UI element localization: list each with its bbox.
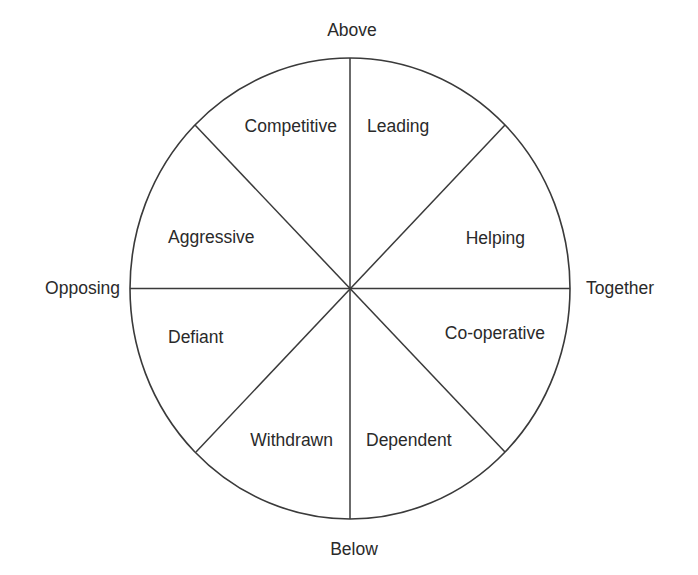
segment-label-withdrawn: Withdrawn [250,430,333,450]
axis-label-top: Above [327,20,377,40]
segment-label-defiant: Defiant [168,327,224,347]
axis-label-bottom: Below [330,539,378,559]
segment-label-competitive: Competitive [245,116,337,136]
axis-label-right: Together [586,278,654,298]
axis-label-left: Opposing [45,278,120,298]
segment-label-aggressive: Aggressive [168,227,255,247]
segment-label-helping: Helping [466,228,525,248]
segment-label-dependent: Dependent [366,430,452,450]
segment-label-leading: Leading [367,116,429,136]
segment-label-co-operative: Co-operative [445,323,545,343]
interpersonal-wheel-diagram: Above Below Opposing Together Competitiv… [0,0,698,575]
wheel-canvas: Above Below Opposing Together Competitiv… [0,0,698,575]
